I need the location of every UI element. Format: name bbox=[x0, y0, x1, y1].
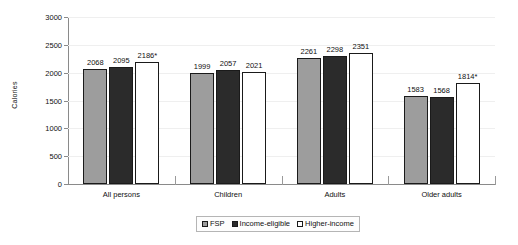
y-tick-label: 1500 bbox=[30, 96, 62, 105]
x-category-label: Children bbox=[175, 190, 282, 199]
bar-1[interactable]: 1568 bbox=[430, 97, 454, 184]
y-tick-label: 3000 bbox=[30, 13, 62, 22]
bar-chart: Calories FSP Income-eligible Higher-inco… bbox=[0, 0, 518, 245]
bar-0[interactable]: 2261 bbox=[297, 58, 321, 184]
bar-0[interactable]: 1999 bbox=[190, 73, 214, 184]
bar-value-label: 2068 bbox=[87, 58, 104, 68]
x-category-label: Adults bbox=[282, 190, 389, 199]
legend-swatch-icon-fsp bbox=[202, 221, 208, 227]
y-tick-label: 1000 bbox=[30, 124, 62, 133]
bar-2[interactable]: 2186* bbox=[135, 62, 159, 184]
legend-item-income-eligible: Income-eligible bbox=[232, 219, 290, 229]
legend-label-income-eligible: Income-eligible bbox=[240, 219, 290, 229]
bar-value-label: 2057 bbox=[220, 59, 237, 69]
y-tick-label-wrap: 0 bbox=[30, 184, 62, 193]
bar-value-label: 2298 bbox=[327, 45, 344, 55]
y-tick-label: 500 bbox=[30, 152, 62, 161]
bar-value-label: 2186* bbox=[138, 51, 158, 61]
legend-swatch-icon-higher-income bbox=[297, 221, 303, 227]
legend-item-fsp: FSP bbox=[202, 219, 225, 229]
bar-group: 158315681814* bbox=[388, 17, 495, 185]
bar-value-label: 1999 bbox=[194, 62, 211, 72]
legend-swatch-icon-income-eligible bbox=[232, 221, 238, 227]
bar-value-label: 2261 bbox=[301, 47, 318, 57]
y-axis-title: Calories bbox=[11, 81, 18, 108]
legend-item-higher-income: Higher-income bbox=[297, 219, 354, 229]
bar-group-bars: 206820952186* bbox=[68, 17, 175, 184]
bar-group-bars: 199920572021 bbox=[175, 17, 282, 184]
y-tick-label-wrap: 500 bbox=[30, 156, 62, 165]
y-tick-label: 0 bbox=[30, 180, 62, 189]
y-tick-label-wrap: 3000 bbox=[30, 17, 62, 26]
bar-group-bars: 226122982351 bbox=[282, 17, 389, 184]
bar-value-label: 2095 bbox=[113, 56, 130, 66]
bar-0[interactable]: 2068 bbox=[83, 69, 107, 184]
bar-group-bars: 158315681814* bbox=[388, 17, 495, 184]
bar-group: 206820952186* bbox=[68, 17, 175, 185]
bar-value-label: 1568 bbox=[433, 86, 450, 96]
y-tick-label-wrap: 1000 bbox=[30, 128, 62, 137]
bar-group: 199920572021 bbox=[175, 17, 282, 185]
bar-value-label: 2021 bbox=[246, 61, 263, 71]
bar-1[interactable]: 2298 bbox=[323, 56, 347, 184]
bar-1[interactable]: 2095 bbox=[109, 67, 133, 184]
x-category-label: Older adults bbox=[388, 190, 495, 199]
y-tick-label: 2000 bbox=[30, 68, 62, 77]
y-tick-label: 2500 bbox=[30, 40, 62, 49]
y-tick-label-wrap: 2500 bbox=[30, 45, 62, 54]
bar-2[interactable]: 2351 bbox=[349, 53, 373, 184]
bar-2[interactable]: 1814* bbox=[456, 83, 480, 184]
bar-value-label: 1814* bbox=[458, 72, 478, 82]
bar-value-label: 1583 bbox=[407, 85, 424, 95]
legend-label-higher-income: Higher-income bbox=[305, 219, 354, 229]
bar-group: 226122982351 bbox=[282, 17, 389, 185]
bar-1[interactable]: 2057 bbox=[216, 70, 240, 185]
legend-label-fsp: FSP bbox=[210, 219, 225, 229]
x-category-label: All persons bbox=[68, 190, 175, 199]
group-separator bbox=[495, 176, 496, 185]
y-tick-label-wrap: 1500 bbox=[30, 101, 62, 110]
chart-legend: FSP Income-eligible Higher-income bbox=[196, 216, 360, 232]
y-tick-label-wrap: 2000 bbox=[30, 73, 62, 82]
bar-0[interactable]: 1583 bbox=[404, 96, 428, 184]
bar-2[interactable]: 2021 bbox=[242, 72, 266, 185]
bar-value-label: 2351 bbox=[353, 42, 370, 52]
